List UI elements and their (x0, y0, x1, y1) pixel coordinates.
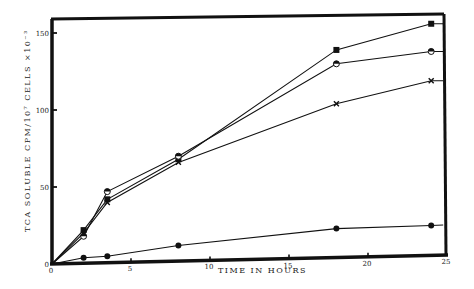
square-marker (333, 47, 339, 53)
right-frame-line (444, 14, 446, 255)
filled-circle-marker (81, 255, 87, 261)
series-group (52, 21, 443, 264)
x-tick-label: 10 (205, 263, 214, 271)
series-line (52, 81, 443, 264)
x-tick-label: 25 (442, 258, 451, 266)
series-cross (52, 78, 443, 264)
filled-circle-marker (104, 253, 110, 259)
series-line (52, 52, 443, 265)
y-tick-label: 100 (36, 107, 49, 115)
y-axis-title: TCA SOLUBLE CPM/10⁷ CELLS ×10⁻³ (23, 29, 32, 232)
series-line (52, 24, 443, 264)
square-marker (428, 21, 434, 27)
x-axis-title: TIME IN HOURS (218, 266, 307, 275)
series-half-filled-circle (52, 48, 443, 264)
chart: 0501001500510152025 TIME IN HOURS TCA SO… (0, 0, 474, 289)
filled-circle-marker (333, 226, 339, 232)
filled-circle-marker (175, 243, 181, 249)
x-tick-label: 20 (363, 260, 372, 268)
y-tick-label: 50 (40, 184, 49, 192)
x-tick-label: 5 (128, 265, 132, 273)
y-tick-label: 150 (36, 30, 49, 38)
x-tick-label: 0 (49, 267, 53, 275)
filled-circle-marker (428, 223, 434, 229)
top-frame-line (51, 14, 444, 19)
